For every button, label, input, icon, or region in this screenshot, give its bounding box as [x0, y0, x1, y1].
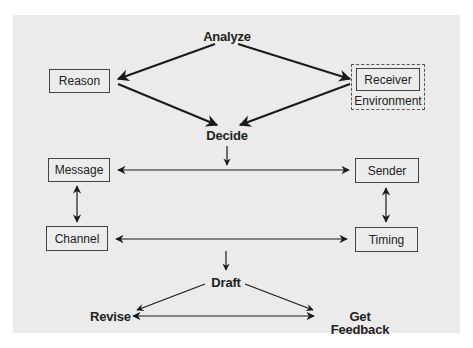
node-analyze: Analyze: [196, 30, 258, 43]
box-channel: Channel: [46, 226, 108, 251]
label-environment: Environment: [353, 95, 423, 107]
node-get-feedback: Get Feedback: [320, 310, 400, 336]
box-receiver: Receiver: [356, 68, 420, 91]
arrow-reason-decide: [118, 84, 217, 125]
node-revise: Revise: [90, 310, 130, 323]
arrow-analyze-reason: [118, 44, 215, 79]
arrow-draft-revise: [137, 284, 205, 310]
node-draft: Draft: [205, 276, 247, 289]
arrow-receiver-decide: [240, 84, 350, 125]
arrow-analyze-receiver: [238, 44, 350, 79]
box-message: Message: [48, 158, 110, 182]
node-decide: Decide: [200, 129, 254, 142]
box-sender: Sender: [355, 158, 419, 183]
box-timing: Timing: [355, 227, 418, 252]
arrow-draft-feedback: [245, 284, 313, 310]
box-reason: Reason: [49, 69, 110, 93]
